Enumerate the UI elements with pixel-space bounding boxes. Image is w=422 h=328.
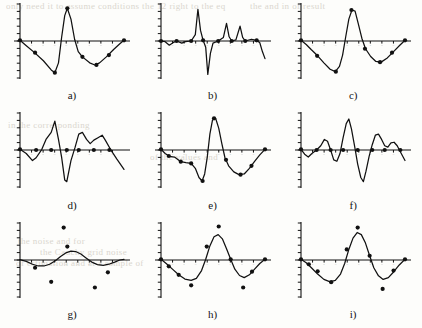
svg-text:∙∙: ∙∙ (194, 153, 196, 157)
panel-e-data-point (158, 147, 162, 151)
panel-b-x-tick: ∙∙ (252, 41, 254, 48)
svg-text:∙∙: ∙∙ (42, 153, 44, 157)
figure-panel-grid: only need it to assume conditions the 12… (0, 0, 422, 328)
panel-g-curve (20, 251, 124, 266)
panel-i-data-point (392, 268, 396, 272)
svg-text:∙∙: ∙∙ (206, 263, 208, 267)
panel-f-data-point (356, 148, 360, 152)
panel-e-x-tick: ∙∙ (171, 150, 173, 157)
panel-i: ∙∙∙∙∙∙∙∙∙∙∙∙∙∙∙∙i) (281, 219, 422, 328)
panel-b-data-point (201, 38, 205, 42)
panel-d-x-tick: ∙∙ (42, 150, 44, 157)
panel-h-data-point (228, 257, 232, 261)
panel-h-x-tick: ∙∙ (194, 260, 196, 267)
panel-i-data-point (356, 225, 360, 229)
panel-d-data-point (92, 148, 96, 152)
svg-text:∙∙: ∙∙ (183, 44, 185, 48)
svg-text:∙∙: ∙∙ (381, 153, 383, 157)
svg-text:∙∙: ∙∙ (54, 44, 56, 48)
panel-e-plot: ∙∙∙∙∙∙∙∙∙∙∙∙∙∙∙∙ (141, 109, 282, 200)
svg-text:∙∙: ∙∙ (241, 153, 243, 157)
panel-i-x-tick: ∙∙ (312, 260, 314, 267)
panel-g-data-point (106, 270, 110, 274)
svg-text:∙∙: ∙∙ (171, 44, 173, 48)
svg-text:∙∙: ∙∙ (100, 44, 102, 48)
panel-a-data-point (80, 55, 84, 59)
panel-b-data-point (229, 39, 233, 43)
panel-b-data-point (216, 39, 220, 43)
svg-text:∙∙: ∙∙ (323, 153, 325, 157)
svg-text:∙∙: ∙∙ (241, 44, 243, 48)
svg-text:∙∙: ∙∙ (312, 263, 314, 267)
svg-text:∙∙: ∙∙ (100, 153, 102, 157)
panel-a-data-point (107, 53, 111, 57)
panel-h-plot: ∙∙∙∙∙∙∙∙∙∙∙∙∙∙∙∙ (141, 219, 282, 310)
panel-e-data-point (178, 160, 182, 164)
svg-text:∙∙: ∙∙ (393, 263, 395, 267)
panel-e-data-point (212, 116, 216, 120)
panel-f-data-point (383, 148, 387, 152)
panel-c-plot: ∙∙∙∙∙∙∙∙∙∙∙∙∙∙∙∙ (281, 0, 422, 91)
panel-i-data-point (381, 286, 385, 290)
svg-text:∙∙: ∙∙ (312, 44, 314, 48)
panel-i-data-point (345, 247, 349, 251)
panel-b-label: b) (198, 89, 228, 101)
panel-i-x-tick: ∙∙ (347, 260, 349, 267)
panel-d-x-tick: ∙∙ (54, 150, 56, 157)
panel-i-x-tick: ∙∙ (323, 260, 325, 267)
svg-text:∙∙: ∙∙ (65, 263, 67, 267)
panel-c-x-tick: ∙∙ (393, 41, 395, 48)
svg-text:∙∙: ∙∙ (77, 263, 79, 267)
svg-text:∙∙: ∙∙ (194, 44, 196, 48)
panel-i-x-tick: ∙∙ (335, 260, 337, 267)
panel-d-data-point (49, 148, 53, 152)
svg-text:∙∙: ∙∙ (54, 153, 56, 157)
panel-f-x-tick: ∙∙ (347, 150, 349, 157)
panel-f-x-tick: ∙∙ (393, 150, 395, 157)
panel-d: ∙∙∙∙∙∙∙∙∙∙∙∙∙∙∙∙d) (0, 109, 141, 218)
panel-h-x-tick: ∙∙ (183, 260, 185, 267)
panel-c-x-tick: ∙∙ (323, 41, 325, 48)
panel-e-data-point (238, 173, 242, 177)
svg-text:∙∙: ∙∙ (335, 263, 337, 267)
panel-h-label: h) (198, 308, 228, 320)
svg-text:∙∙: ∙∙ (206, 44, 208, 48)
panel-f-x-tick: ∙∙ (335, 150, 337, 157)
svg-text:∙∙: ∙∙ (370, 263, 372, 267)
panel-a-x-tick: ∙∙ (42, 41, 44, 48)
panel-e-data-point (166, 154, 170, 158)
panel-f-data-point (299, 147, 303, 151)
panel-f-x-tick: ∙∙ (381, 150, 383, 157)
panel-i-x-tick: ∙∙ (358, 260, 360, 267)
panel-a-plot: ∙∙∙∙∙∙∙∙∙∙∙∙∙∙∙∙ (0, 0, 141, 91)
panel-g-plot: ∙∙∙∙∙∙∙∙∙∙∙∙∙∙∙∙ (0, 219, 141, 310)
svg-text:∙∙: ∙∙ (77, 153, 79, 157)
panel-g-data-point (62, 225, 66, 229)
panel-b: ∙∙∙∙∙∙∙∙∙∙∙∙∙∙∙∙b) (141, 0, 282, 109)
svg-text:∙∙: ∙∙ (229, 263, 231, 267)
panel-i-label: i) (338, 308, 368, 320)
svg-text:∙∙: ∙∙ (42, 44, 44, 48)
panel-b-x-tick: ∙∙ (241, 41, 243, 48)
panel-b-data-point (254, 38, 258, 42)
svg-text:∙∙: ∙∙ (88, 263, 90, 267)
panel-h-x-tick: ∙∙ (241, 260, 243, 267)
panel-h-data-point (241, 285, 245, 289)
panel-d-x-tick: ∙∙ (100, 150, 102, 157)
panel-b-data-point (189, 39, 193, 43)
panel-i-x-tick: ∙∙ (393, 260, 395, 267)
panel-f-data-point (398, 148, 402, 152)
panel-e: ∙∙∙∙∙∙∙∙∙∙∙∙∙∙∙∙e) (141, 109, 282, 218)
panel-i-x-tick: ∙∙ (381, 260, 383, 267)
svg-text:∙∙: ∙∙ (218, 153, 220, 157)
panel-c-x-tick: ∙∙ (381, 41, 383, 48)
panel-c-data-point (403, 38, 407, 42)
panel-h-data-point (176, 272, 180, 276)
panel-a-data-point (122, 38, 126, 42)
panel-i-data-point (299, 257, 303, 261)
panel-f-x-tick: ∙∙ (323, 150, 325, 157)
svg-text:∙∙: ∙∙ (347, 153, 349, 157)
panel-h-x-tick: ∙∙ (252, 260, 254, 267)
panel-e-x-tick: ∙∙ (229, 150, 231, 157)
panel-f-plot: ∙∙∙∙∙∙∙∙∙∙∙∙∙∙∙∙ (281, 109, 422, 200)
